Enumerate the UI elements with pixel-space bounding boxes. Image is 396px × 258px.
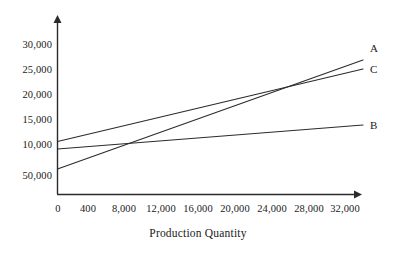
series-label-a: A bbox=[370, 42, 378, 54]
x-tick-label: 16,000 bbox=[183, 203, 212, 215]
x-tick-label: 400 bbox=[80, 203, 96, 215]
x-tick-label: 8,000 bbox=[112, 203, 136, 215]
x-axis-tick-labels: 0 400 8,000 12,000 16,000 20,000 24,000 … bbox=[0, 0, 396, 258]
x-tick-label: 24,000 bbox=[257, 203, 286, 215]
x-tick-label: 12,000 bbox=[146, 203, 175, 215]
x-tick-label: 20,000 bbox=[220, 203, 249, 215]
x-tick-label: 32,000 bbox=[330, 203, 359, 215]
x-tick-label: 0 bbox=[55, 203, 60, 215]
chart-container: 30,000 25,000 20,000 15,000 10,000 50,00… bbox=[0, 0, 396, 258]
x-tick-label: 28,000 bbox=[294, 203, 323, 215]
series-label-b: B bbox=[370, 119, 377, 131]
x-axis-title: Production Quantity bbox=[0, 226, 396, 240]
series-label-c: C bbox=[370, 63, 377, 75]
